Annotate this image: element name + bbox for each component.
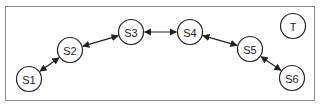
node-label: S5 bbox=[243, 44, 256, 56]
edge-s5-s6 bbox=[261, 57, 281, 71]
node-label: T bbox=[290, 21, 297, 33]
node-label: S2 bbox=[63, 45, 76, 57]
node-label: S6 bbox=[285, 73, 298, 85]
node-s2: S2 bbox=[58, 38, 83, 63]
node-s1: S1 bbox=[17, 67, 42, 92]
edge-s4-s5 bbox=[203, 36, 237, 46]
edge-s2-s3 bbox=[83, 36, 118, 46]
state-diagram: S1S2S3S4S5S6T bbox=[0, 0, 321, 107]
node-label: S1 bbox=[22, 74, 35, 86]
node-s4: S4 bbox=[178, 20, 203, 45]
node-t: T bbox=[281, 14, 306, 39]
nodes-group: S1S2S3S4S5S6T bbox=[17, 14, 306, 92]
node-label: S4 bbox=[183, 27, 196, 39]
node-s5: S5 bbox=[238, 37, 263, 62]
edge-s1-s2 bbox=[40, 58, 59, 71]
node-s6: S6 bbox=[280, 66, 305, 91]
node-label: S3 bbox=[124, 27, 137, 39]
node-s3: S3 bbox=[119, 20, 144, 45]
